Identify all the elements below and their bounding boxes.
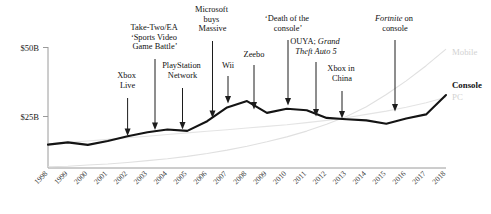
arrow-death-of-the-console — [285, 40, 291, 106]
pc-series-line — [48, 97, 446, 143]
annotation-playstation-network: PlayStation Network — [162, 61, 203, 80]
arrow-wii — [225, 76, 231, 104]
x-tick-1998: 1998 — [32, 169, 49, 186]
annotation-wii: Wii — [222, 61, 235, 70]
fortnite-suffix: on — [402, 14, 413, 23]
arrow-zeebo — [251, 65, 257, 110]
x-tick-2003: 2003 — [132, 169, 149, 186]
x-tick-2011: 2011 — [291, 169, 308, 186]
arrow-xbox-in-china — [339, 91, 345, 119]
x-tick-2012: 2012 — [311, 169, 328, 186]
annotation-fortnite-on-console: Fortnite on console — [374, 14, 415, 33]
x-tick-2002: 2002 — [112, 169, 129, 186]
x-tick-1999: 1999 — [52, 169, 69, 186]
chart-canvas: $50B $25B — [0, 0, 491, 214]
annotation-microsoft-buys-massive: Microsoft buys Massive — [195, 5, 230, 33]
x-axis-year-labels: 1998 1999 2000 2001 2002 2003 2004 2005 … — [32, 169, 447, 186]
arrow-take-two-ea — [152, 59, 158, 130]
annotation-xbox-in-china: Xbox in China — [327, 64, 356, 83]
console-series-line — [48, 95, 446, 145]
annotation-zeebo: Zeebo — [244, 50, 265, 59]
x-tick-2018: 2018 — [430, 169, 447, 186]
x-tick-2014: 2014 — [351, 169, 368, 186]
annotation-labels: Xbox Live Take-Two/EA ‘Sports Video Game… — [117, 5, 415, 90]
gta-title-part2: Theft Auto 5 — [295, 47, 336, 56]
x-tick-2008: 2008 — [231, 169, 248, 186]
x-tick-2017: 2017 — [410, 169, 427, 186]
y-axis-label-50b: $50B — [20, 43, 39, 53]
annotation-xbox-live: Xbox Live — [117, 71, 138, 90]
series-label-pc: PC — [452, 92, 463, 102]
arrow-xbox-live — [125, 98, 131, 136]
y-axis-label-25b: $25B — [20, 112, 39, 122]
x-tick-2007: 2007 — [211, 169, 228, 186]
annotation-ouya-gta5: OUYA; Grand Theft Auto 5 — [290, 37, 342, 56]
arrow-ouya-gta5 — [313, 62, 319, 117]
x-tick-2001: 2001 — [92, 169, 109, 186]
x-tick-2016: 2016 — [391, 169, 408, 186]
x-tick-2006: 2006 — [192, 169, 209, 186]
x-tick-2009: 2009 — [251, 169, 268, 186]
x-tick-2000: 2000 — [72, 169, 89, 186]
annotation-take-two-ea: Take-Two/EA ‘Sports Video Game Battle’ — [131, 23, 180, 51]
fortnite-title: Fortnite — [374, 14, 403, 23]
ouya-label: OUYA; — [290, 37, 318, 46]
x-tick-2015: 2015 — [371, 169, 388, 186]
gta-title-part1: Grand — [318, 37, 341, 46]
chart-axes — [43, 47, 446, 168]
series-label-console: Console — [452, 80, 482, 90]
x-tick-2004: 2004 — [152, 169, 169, 186]
arrow-fortnite-on-console — [392, 40, 398, 112]
arrow-microsoft-buys-massive — [210, 41, 216, 118]
annotation-death-of-the-console: ‘Death of the console’ — [265, 14, 311, 33]
x-tick-2013: 2013 — [331, 169, 348, 186]
mobile-series-line — [48, 49, 446, 167]
x-tick-2005: 2005 — [172, 169, 189, 186]
console-revenue-chart: $50B $25B — [0, 0, 491, 214]
arrow-playstation-network — [180, 88, 186, 130]
series-label-mobile: Mobile — [452, 47, 478, 57]
x-tick-2010: 2010 — [271, 169, 288, 186]
